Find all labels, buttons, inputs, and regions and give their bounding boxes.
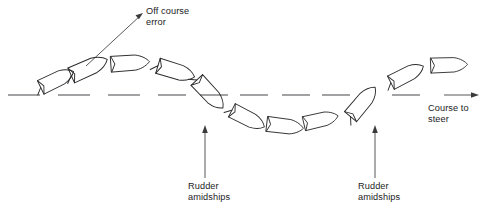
rudder-amidships-left-label: Rudder amidships — [188, 181, 230, 202]
diagram-canvas — [0, 0, 487, 215]
course-to-steer-arrow — [444, 92, 479, 98]
vessel-icon — [303, 109, 340, 131]
vessel-track — [32, 52, 468, 136]
course-to-steer-line1: Course to — [428, 103, 469, 114]
vessel-icon — [266, 116, 304, 135]
off-course-error-leader — [86, 13, 143, 66]
rudder-icon — [386, 83, 394, 91]
course-to-steer-line2: steer — [428, 114, 469, 125]
rudder-amidships-left-line2: amidships — [188, 192, 230, 203]
vessel-icon — [431, 57, 468, 73]
rudder-amidships-right-label: Rudder amidships — [358, 181, 400, 202]
off-course-error-line1: Off course — [146, 6, 189, 17]
steering-diagram: Off course error Rudder amidships Rudder… — [0, 0, 487, 215]
rudder-icon — [224, 108, 232, 116]
off-course-error-label: Off course error — [146, 6, 189, 27]
vessel-icon — [111, 54, 150, 72]
off-course-error-line2: error — [146, 17, 189, 28]
rudder-amidships-left-arrow — [202, 125, 208, 178]
rudder-amidships-right-line1: Rudder — [358, 181, 400, 192]
rudder-amidships-right-arrow — [372, 125, 378, 178]
rudder-icon — [188, 75, 197, 84]
rudder-icon — [35, 87, 43, 95]
course-to-steer-label: Course to steer — [428, 103, 469, 124]
vessel-icon — [382, 59, 427, 92]
vessel-icon — [340, 82, 381, 126]
vessel-icon — [223, 101, 268, 134]
rudder-icon — [346, 117, 354, 126]
rudder-amidships-right-line2: amidships — [358, 192, 400, 203]
vessel-icon — [187, 70, 229, 113]
vessel-icon — [150, 56, 197, 84]
vessel-icon — [62, 52, 111, 85]
rudder-amidships-left-line1: Rudder — [188, 181, 230, 192]
